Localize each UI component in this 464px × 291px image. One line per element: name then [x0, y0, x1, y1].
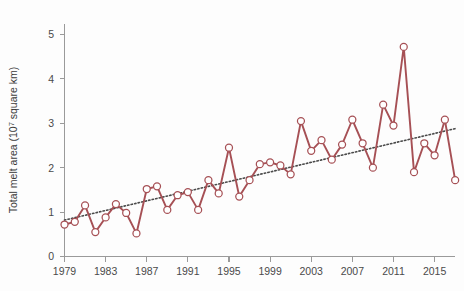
data-point-marker [71, 218, 78, 225]
data-point-marker [164, 206, 171, 213]
data-point-marker [308, 147, 315, 154]
data-point-marker [143, 186, 150, 193]
data-point-marker [154, 183, 161, 190]
x-tick-label: 1995 [217, 265, 241, 277]
data-point-marker [92, 229, 99, 236]
data-point-marker [82, 202, 89, 209]
data-point-marker [359, 140, 366, 147]
data-point-marker [123, 209, 130, 216]
data-series-group [65, 47, 456, 233]
y-axis-title: Total melt area (107 square km) [7, 67, 20, 214]
data-point-marker [400, 43, 407, 50]
data-point-marker [133, 230, 140, 237]
y-tick-label: 2 [48, 162, 54, 174]
data-point-marker [102, 214, 109, 221]
data-point-marker [318, 137, 325, 144]
x-tick-label: 2007 [341, 265, 365, 277]
data-point-marker [431, 152, 438, 159]
data-point-marker [441, 116, 448, 123]
y-tick-label: 1 [48, 206, 54, 218]
x-tick-label: 1979 [53, 265, 77, 277]
data-point-marker [452, 177, 459, 184]
x-tick-label: 1987 [135, 265, 159, 277]
data-point-marker [256, 161, 263, 168]
data-point-marker [277, 162, 284, 169]
data-point-marker [195, 206, 202, 213]
chart-canvas: 012345 197919831987199119951999200320072… [0, 0, 464, 291]
data-point-marker [236, 193, 243, 200]
x-axis-ticks: 1979198319871991199519992003200720112015 [53, 257, 447, 278]
y-tick-label: 0 [48, 250, 54, 262]
data-point-marker [246, 177, 253, 184]
x-tick-label: 1991 [176, 265, 200, 277]
x-tick-label: 2011 [382, 265, 405, 277]
x-tick-label: 1983 [94, 265, 118, 277]
trend-line [65, 129, 456, 220]
data-point-marker [390, 122, 397, 129]
data-point-marker [369, 164, 376, 171]
y-tick-label: 3 [48, 117, 54, 129]
data-point-marker [174, 192, 181, 199]
data-point-marker [287, 171, 294, 178]
data-point-marker [411, 169, 418, 176]
series-line [65, 47, 456, 233]
y-tick-label: 4 [48, 73, 54, 85]
data-point-marker [339, 141, 346, 148]
data-point-marker [380, 101, 387, 108]
x-tick-label: 2015 [423, 265, 447, 277]
data-point-marker [349, 116, 356, 123]
data-point-marker [297, 118, 304, 125]
trend-line-group [65, 129, 456, 220]
data-point-marker [184, 189, 191, 196]
x-tick-label: 1999 [258, 265, 282, 277]
data-point-marker [215, 190, 222, 197]
data-point-marker [225, 144, 232, 151]
y-tick-label: 5 [48, 28, 54, 40]
data-point-marker [205, 177, 212, 184]
data-point-marker [267, 159, 274, 166]
data-point-marker [421, 140, 428, 147]
data-point-marker [328, 156, 335, 163]
data-point-marker [61, 221, 68, 228]
x-tick-label: 2003 [300, 265, 324, 277]
melt-area-chart: 012345 197919831987199119951999200320072… [0, 0, 464, 291]
data-point-marker [112, 201, 119, 208]
